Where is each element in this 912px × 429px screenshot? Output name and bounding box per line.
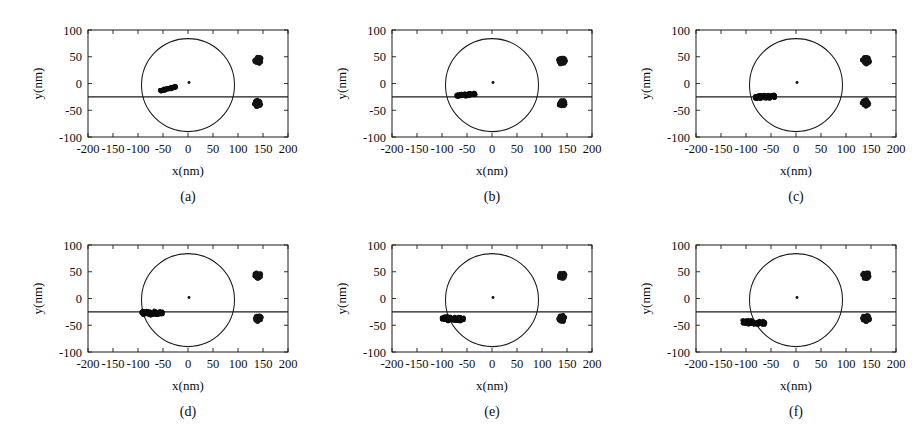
y-tick-labels: -100-50050100 xyxy=(667,238,690,359)
svg-text:0: 0 xyxy=(76,77,82,91)
svg-text:-50: -50 xyxy=(763,357,780,371)
axis-ticks xyxy=(392,245,592,352)
svg-text:-100: -100 xyxy=(431,357,454,371)
svg-text:0: 0 xyxy=(793,142,799,156)
reference-circle xyxy=(142,253,235,346)
svg-text:-100: -100 xyxy=(127,357,150,371)
svg-text:-50: -50 xyxy=(155,142,172,156)
svg-text:50: 50 xyxy=(207,357,220,371)
svg-text:-150: -150 xyxy=(710,142,733,156)
svg-text:0: 0 xyxy=(185,357,191,371)
axis-ticks xyxy=(88,245,288,352)
lower-blob xyxy=(557,98,568,108)
svg-text:150: 150 xyxy=(558,142,577,156)
center-point xyxy=(796,81,799,84)
panel-caption: (b) xyxy=(484,189,501,205)
y-axis-label: y(nm) xyxy=(638,282,653,314)
particle-cluster xyxy=(139,308,165,317)
x-axis-label: x(nm) xyxy=(172,163,204,178)
plot-frame xyxy=(696,30,896,137)
plot-panel-c: -200-150-100-50050100150200-100-50050100… xyxy=(608,0,912,215)
upper-blob xyxy=(252,270,262,280)
particle-cluster xyxy=(752,92,777,101)
svg-text:150: 150 xyxy=(254,357,273,371)
plot-frame xyxy=(392,245,592,352)
svg-text:-150: -150 xyxy=(406,142,429,156)
svg-text:50: 50 xyxy=(815,142,828,156)
lower-blob xyxy=(253,313,264,323)
svg-text:-50: -50 xyxy=(763,142,780,156)
svg-text:50: 50 xyxy=(678,50,691,64)
plot-frame xyxy=(88,30,288,137)
svg-text:50: 50 xyxy=(511,357,524,371)
svg-text:0: 0 xyxy=(489,142,495,156)
plot-canvas: -200-150-100-50050100150200-100-50050100… xyxy=(304,215,608,429)
x-tick-labels: -200-150-100-50050100150200 xyxy=(685,357,906,371)
y-axis-label: y(nm) xyxy=(30,282,45,314)
svg-text:-150: -150 xyxy=(102,357,125,371)
svg-text:100: 100 xyxy=(367,238,386,252)
svg-text:200: 200 xyxy=(279,357,298,371)
svg-text:-100: -100 xyxy=(735,142,758,156)
panel-caption: (f) xyxy=(789,404,803,420)
upper-blob xyxy=(252,55,263,66)
axis-ticks xyxy=(88,30,288,137)
x-axis-label: x(nm) xyxy=(780,378,812,393)
plot-canvas: -200-150-100-50050100150200-100-50050100… xyxy=(608,0,912,215)
particle-cluster xyxy=(454,90,478,100)
x-axis-label: x(nm) xyxy=(476,378,508,393)
plot-canvas: -200-150-100-50050100150200-100-50050100… xyxy=(608,215,912,429)
y-tick-labels: -100-50050100 xyxy=(59,24,82,145)
svg-text:150: 150 xyxy=(862,142,881,156)
svg-text:-150: -150 xyxy=(102,142,125,156)
lower-blob xyxy=(860,313,872,324)
x-axis-label: x(nm) xyxy=(476,163,508,178)
plot-frame xyxy=(392,30,592,137)
svg-text:-100: -100 xyxy=(59,131,82,145)
svg-text:50: 50 xyxy=(374,265,387,279)
svg-text:-100: -100 xyxy=(735,357,758,371)
svg-text:-100: -100 xyxy=(59,345,82,359)
svg-text:200: 200 xyxy=(583,142,602,156)
svg-text:100: 100 xyxy=(63,24,82,38)
reference-circle xyxy=(750,253,843,346)
svg-text:100: 100 xyxy=(837,142,856,156)
plot-panel-d: -200-150-100-50050100150200-100-50050100… xyxy=(0,215,304,429)
svg-text:0: 0 xyxy=(380,77,386,91)
x-axis-label: x(nm) xyxy=(172,378,204,393)
plot-panel-b: -200-150-100-50050100150200-100-50050100… xyxy=(304,0,608,215)
upper-blob xyxy=(860,270,871,281)
plot-panel-e: -200-150-100-50050100150200-100-50050100… xyxy=(304,215,608,429)
plot-panel-f: -200-150-100-50050100150200-100-50050100… xyxy=(608,215,912,429)
svg-text:50: 50 xyxy=(678,265,691,279)
svg-text:0: 0 xyxy=(185,142,191,156)
plot-canvas: -200-150-100-50050100150200-100-50050100… xyxy=(304,0,608,215)
svg-text:50: 50 xyxy=(70,265,83,279)
svg-text:-50: -50 xyxy=(459,357,476,371)
y-tick-labels: -100-50050100 xyxy=(667,24,690,145)
svg-text:50: 50 xyxy=(70,50,83,64)
svg-text:-100: -100 xyxy=(667,345,690,359)
y-tick-labels: -100-50050100 xyxy=(363,238,386,359)
lower-blob xyxy=(860,97,871,108)
svg-text:-50: -50 xyxy=(155,357,172,371)
x-axis-label: x(nm) xyxy=(780,163,812,178)
svg-text:200: 200 xyxy=(887,142,906,156)
center-point xyxy=(492,295,495,298)
center-point xyxy=(188,81,191,84)
plot-frame xyxy=(88,245,288,352)
center-point xyxy=(492,81,495,84)
lower-blob xyxy=(556,313,567,324)
axis-ticks xyxy=(696,245,896,352)
y-tick-labels: -100-50050100 xyxy=(59,238,82,359)
panel-caption: (a) xyxy=(180,189,196,205)
x-tick-labels: -200-150-100-50050100150200 xyxy=(381,357,602,371)
upper-blob xyxy=(557,270,567,280)
axis-ticks xyxy=(696,30,896,137)
svg-text:-100: -100 xyxy=(363,345,386,359)
particle-cluster xyxy=(440,314,466,324)
reference-circle xyxy=(750,39,843,132)
svg-text:-100: -100 xyxy=(363,131,386,145)
svg-text:50: 50 xyxy=(374,50,387,64)
panel-caption: (c) xyxy=(788,189,804,205)
